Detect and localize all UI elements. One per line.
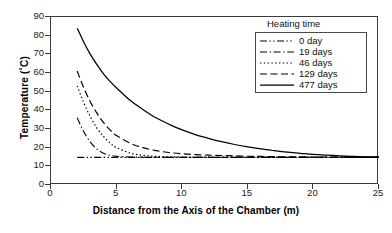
x-tick-mark — [312, 184, 313, 189]
x-tick-label: 25 — [358, 187, 392, 198]
legend-item-label: 129 days — [299, 69, 338, 79]
legend-item[interactable]: 129 days — [259, 68, 363, 79]
legend-item-label: 477 days — [299, 80, 338, 90]
x-tick-mark — [378, 184, 379, 189]
legend-line-swatch — [259, 80, 295, 90]
x-tick-mark — [247, 184, 248, 189]
x-tick-mark — [50, 184, 51, 189]
legend-line-swatch — [259, 47, 295, 57]
legend-item[interactable]: 46 days — [259, 57, 363, 68]
legend-box: 0 day19 days46 days129 days477 days — [255, 32, 367, 93]
legend-title: Heating time — [255, 18, 377, 30]
legend-item[interactable]: 477 days — [259, 79, 363, 90]
x-tick-mark — [116, 184, 117, 189]
x-tick-mark — [181, 184, 182, 189]
legend-item[interactable]: 0 day — [259, 35, 363, 46]
legend-item-label: 46 days — [299, 58, 332, 68]
legend-line-swatch — [259, 69, 295, 79]
legend-line-swatch — [259, 36, 295, 46]
legend: Heating time 0 day19 days46 days129 days… — [255, 18, 377, 93]
legend-line-swatch — [259, 58, 295, 68]
legend-item-label: 19 days — [299, 47, 332, 57]
x-axis-title: Distance from the Axis of the Chamber (m… — [0, 205, 392, 216]
legend-item-label: 0 day — [299, 36, 322, 46]
chart-figure: 0102030405060708090 Temperature (˚C) 051… — [0, 0, 392, 233]
legend-item[interactable]: 19 days — [259, 46, 363, 57]
